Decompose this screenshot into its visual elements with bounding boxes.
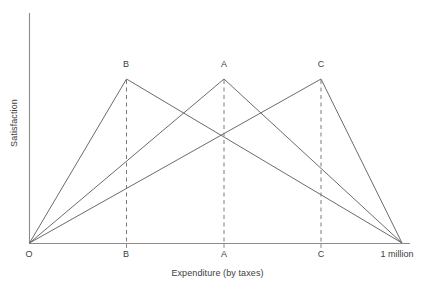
peak-label-c: C — [311, 59, 331, 69]
x-tick-label-origin: O — [19, 249, 39, 259]
x-tick-label-c: C — [311, 249, 331, 259]
series-line-b — [30, 79, 403, 243]
y-axis-title: Satisfaction — [9, 73, 19, 173]
x-tick-label-max: 1 million — [366, 249, 428, 259]
peak-label-a: A — [214, 59, 234, 69]
series-line-c — [30, 79, 403, 243]
peak-label-b: B — [116, 59, 136, 69]
x-tick-label-a: A — [214, 249, 234, 259]
x-axis-title: Expenditure (by taxes) — [0, 268, 435, 278]
chart-figure: B A C O B A C 1 million Satisfaction Exp… — [0, 0, 435, 296]
series-line-a — [30, 79, 403, 243]
x-tick-label-b: B — [116, 249, 136, 259]
